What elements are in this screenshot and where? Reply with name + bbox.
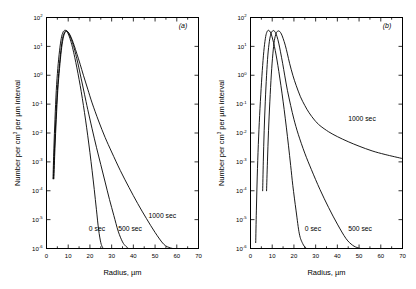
y-tick-label: 10-3 xyxy=(236,157,247,165)
x-axis-title: Radius, µm xyxy=(307,268,345,277)
y-tick-label: 10-2 xyxy=(32,129,43,137)
x-tick-label: 70 xyxy=(195,253,202,259)
x-tick-label: 20 xyxy=(291,253,298,259)
x-tick-label: 40 xyxy=(334,253,341,259)
y-tick-label: 10-2 xyxy=(236,129,247,137)
curve-label-1000-sec: 1000 sec xyxy=(348,115,376,122)
y-tick-label: 101 xyxy=(237,42,247,50)
curve-1000-sec xyxy=(267,31,403,191)
y-tick-label: 10-6 xyxy=(32,244,43,252)
x-axis-title: Radius, µm xyxy=(103,268,141,277)
x-tick-label: 10 xyxy=(65,253,72,259)
y-tick-label: 10-5 xyxy=(32,215,43,223)
x-tick-label: 0 xyxy=(249,253,253,259)
y-tick-label: 10-1 xyxy=(236,100,247,108)
curve-label-500-sec: 500 sec xyxy=(348,225,372,232)
y-tick-label: 10-4 xyxy=(32,186,43,194)
x-tick-label: 0 xyxy=(45,253,49,259)
curves-group xyxy=(256,30,403,248)
y-tick-label: 10-1 xyxy=(32,100,43,108)
y-tick-label: 10-4 xyxy=(236,186,247,194)
y-tick-label: 10-3 xyxy=(32,157,43,165)
panel-label-a: (a) xyxy=(179,22,188,30)
panel-label-b: (b) xyxy=(383,22,392,30)
x-tick-label: 60 xyxy=(173,253,180,259)
curve-label-0-sec: 0 sec xyxy=(305,225,322,232)
y-tick-label: 102 xyxy=(33,13,43,21)
x-tick-label: 50 xyxy=(356,253,363,259)
panel-a: 01020304050607010-610-510-410-310-210-11… xyxy=(13,13,203,276)
x-tick-label: 30 xyxy=(108,253,115,259)
y-tick-label: 101 xyxy=(33,42,43,50)
figure-container: 01020304050607010-610-510-410-310-210-11… xyxy=(0,0,416,289)
curve-label-0-sec: 0 sec xyxy=(89,225,106,232)
curve-500-sec xyxy=(53,31,128,249)
x-tick-label: 40 xyxy=(130,253,137,259)
y-tick-label: 10-5 xyxy=(236,215,247,223)
y-tick-label: 102 xyxy=(237,13,247,21)
y-tick-label: 100 xyxy=(237,71,247,79)
x-tick-label: 70 xyxy=(399,253,406,259)
x-tick-label: 50 xyxy=(152,253,159,259)
y-axis-title: Number per cm3 per µm interval xyxy=(217,80,226,186)
figure-svg: 01020304050607010-610-510-410-310-210-11… xyxy=(0,0,416,289)
panel-b: 01020304050607010-610-510-410-310-210-11… xyxy=(217,13,407,276)
x-tick-label: 30 xyxy=(312,253,319,259)
y-tick-label: 10-6 xyxy=(236,244,247,252)
x-tick-label: 20 xyxy=(87,253,94,259)
y-tick-label: 100 xyxy=(33,71,43,79)
x-tick-label: 60 xyxy=(377,253,384,259)
y-axis-title: Number per cm3 per µm interval xyxy=(13,80,22,186)
curve-label-500-sec: 500 sec xyxy=(118,225,142,232)
curve-label-1000-sec: 1000 sec xyxy=(149,212,177,219)
x-tick-label: 10 xyxy=(269,253,276,259)
